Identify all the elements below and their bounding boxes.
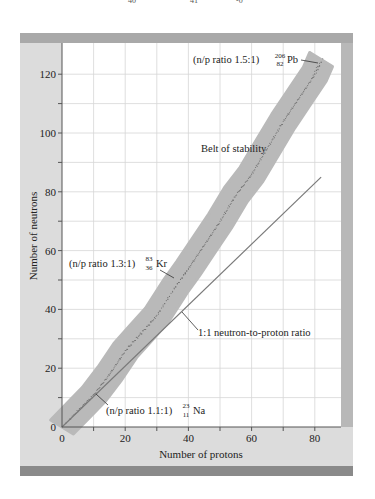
svg-text:-0: -0 — [236, 0, 243, 5]
svg-text:11: 11 — [183, 411, 190, 419]
svg-text:0: 0 — [51, 421, 57, 433]
svg-text:83: 83 — [146, 255, 154, 263]
svg-text:0: 0 — [59, 432, 65, 444]
svg-text:40: 40 — [45, 303, 57, 315]
svg-text:80: 80 — [45, 186, 57, 198]
svg-text:40: 40 — [183, 432, 195, 444]
svg-text:Pb: Pb — [287, 54, 298, 65]
svg-text:82: 82 — [277, 60, 285, 68]
svg-text:206: 206 — [275, 52, 286, 60]
svg-text:60: 60 — [45, 245, 57, 257]
svg-text:100: 100 — [40, 127, 57, 139]
svg-text:40: 40 — [128, 0, 136, 5]
annotation-belt-of-stability: Belt of stability — [201, 143, 267, 154]
svg-text:(n/p ratio 1.1:1): (n/p ratio 1.1:1) — [106, 405, 173, 417]
panel-top-strip — [20, 33, 353, 43]
top-caption-fragment: 4041-0 — [128, 0, 243, 5]
svg-text:(n/p ratio 1.5:1): (n/p ratio 1.5:1) — [193, 54, 260, 66]
svg-text:60: 60 — [246, 432, 258, 444]
panel-bottom-strip — [20, 466, 353, 476]
svg-text:20: 20 — [120, 432, 132, 444]
svg-text:(n/p ratio 1.3:1): (n/p ratio 1.3:1) — [69, 258, 136, 270]
svg-text:Kr: Kr — [156, 258, 168, 269]
x-axis-title: Number of protons — [159, 448, 243, 460]
svg-text:1:1 neutron-to-proton ratio: 1:1 neutron-to-proton ratio — [198, 327, 311, 338]
svg-text:80: 80 — [309, 432, 321, 444]
svg-text:41: 41 — [190, 0, 198, 5]
figure: 4041-0 020406080 020406080100120 Number … — [0, 0, 375, 499]
svg-text:23: 23 — [183, 402, 191, 410]
y-axis-title: Number of neutrons — [27, 192, 39, 281]
svg-text:120: 120 — [40, 68, 57, 80]
panel-right-strip — [341, 43, 353, 427]
svg-text:20: 20 — [45, 362, 57, 374]
svg-text:Na: Na — [193, 405, 206, 416]
svg-text:36: 36 — [146, 264, 154, 272]
